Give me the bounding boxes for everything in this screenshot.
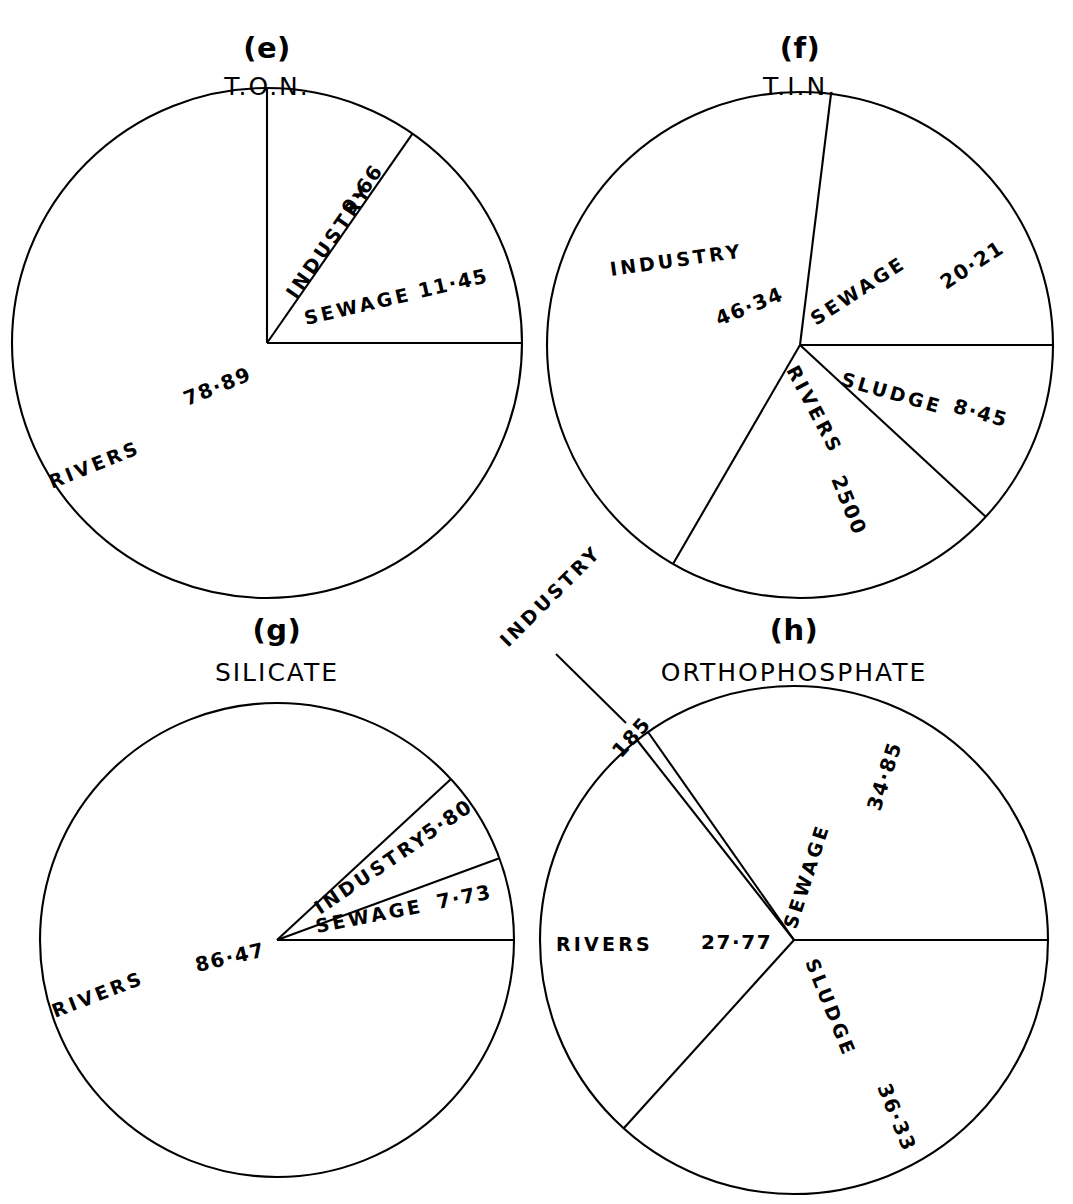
slice-value-f-sludge: 8·45	[951, 394, 1011, 432]
panel-e: (e) T.O.N. INDUSTRY 9·66 SEWAGE 11·45 RI…	[12, 31, 522, 598]
slice-value-h-rivers: 27·77	[701, 930, 772, 954]
slice-label-f-sludge: SLUDGE	[839, 368, 945, 418]
slice-value-h-sludge: 36·33	[872, 1080, 921, 1155]
panel-letter-g: (g)	[253, 613, 302, 647]
slice-label-h-sewage: SEWAGE	[779, 821, 834, 932]
slice-label-e-sewage: SEWAGE	[302, 283, 413, 329]
slice-label-f-industry: INDUSTRY	[608, 240, 744, 280]
slice-label-h-rivers: RIVERS	[556, 933, 653, 955]
slice-value-f-sewage: 20·21	[936, 235, 1009, 294]
leader-line-h-industry	[556, 654, 626, 723]
slice-value-e-sewage: 11·45	[416, 263, 491, 302]
slice-value-e-industry: 9·66	[336, 159, 388, 218]
panel-g: (g) SILICATE INDUSTRY 5·80 SEWAGE 7·73 R…	[40, 613, 514, 1177]
pie-spoke-h-sludge-rivers	[624, 940, 794, 1128]
panel-letter-h: (h)	[770, 613, 819, 647]
slice-value-g-sewage: 7·73	[434, 880, 493, 914]
panel-title-e: T.O.N.	[223, 72, 310, 101]
pie-spoke-f-rivers-industry	[673, 345, 800, 564]
panel-title-f: T.I.N.	[762, 72, 837, 101]
figure-root: (e) T.O.N. INDUSTRY 9·66 SEWAGE 11·45 RI…	[0, 0, 1073, 1204]
slice-label-f-sewage: SEWAGE	[806, 251, 910, 329]
slice-label-h-sludge: SLUDGE	[801, 955, 860, 1060]
slice-value-f-industry: 46·34	[712, 282, 787, 331]
slice-value-e-rivers: 78·89	[180, 362, 255, 411]
pie-spoke-h-rivers-industry	[637, 740, 794, 940]
panel-f: (f) T.I.N. INDUSTRY 46·34 SEWAGE 20·21 S…	[547, 31, 1053, 598]
slice-value-h-sewage: 34·85	[862, 738, 907, 813]
slice-label-g-rivers: RIVERS	[49, 966, 147, 1021]
panel-letter-f: (f)	[780, 31, 821, 65]
panel-title-h: ORTHOPHOSPHATE	[661, 658, 928, 687]
slice-label-e-rivers: RIVERS	[45, 436, 143, 493]
pie-spoke-h-industry-sewage	[648, 732, 794, 940]
slice-label-f-rivers: RIVERS	[782, 362, 847, 458]
slice-label-h-industry: INDUSTRY	[495, 541, 605, 651]
panel-title-g: SILICATE	[215, 658, 339, 687]
panel-letter-e: (e)	[243, 31, 291, 65]
pie-chart-figure: (e) T.O.N. INDUSTRY 9·66 SEWAGE 11·45 RI…	[0, 0, 1073, 1204]
slice-value-f-rivers: 2500	[826, 472, 872, 539]
slice-value-g-rivers: 86·47	[193, 937, 268, 976]
panel-h: (h) ORTHOPHOSPHATE INDUSTRY 185 SEWAGE 3…	[495, 541, 1048, 1194]
